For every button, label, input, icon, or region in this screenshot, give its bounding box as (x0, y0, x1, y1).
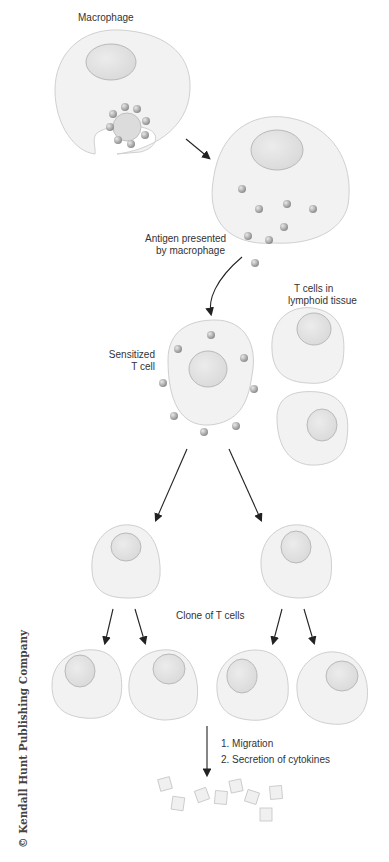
label-sensitized-line2: T cell (100, 361, 155, 373)
arrow-rr (304, 609, 314, 643)
label-antigen-presented: Antigen presented by macrophage (145, 233, 225, 257)
clone-cell-4 (297, 652, 368, 724)
label-clone: Clone of T cells (176, 610, 245, 622)
label-macrophage: Macrophage (78, 12, 134, 24)
cytokines (158, 777, 283, 821)
arrow-ll (105, 609, 113, 643)
label-antigen-line2: by macrophage (145, 245, 225, 257)
arrow-split-left (156, 449, 187, 520)
label-tcells-line1: T cells in (288, 283, 357, 295)
sensitized-t-cell (159, 320, 258, 436)
arrow-antigen-to-tcell (210, 257, 242, 314)
label-sensitized-t-cell: Sensitized T cell (100, 349, 155, 373)
label-antigen-line1: Antigen presented (145, 233, 225, 245)
arrow-lr (135, 609, 145, 643)
label-step-migration: 1. Migration (221, 738, 273, 750)
diagram-canvas (0, 0, 389, 862)
arrow-macrophage-to-digest (186, 139, 209, 158)
clone-cell-left (92, 525, 160, 598)
arrow-split-right (229, 449, 261, 520)
arrow-rl (273, 609, 282, 643)
label-tcells-line2: lymphoid tissue (288, 295, 357, 307)
clone-cell-1 (52, 650, 122, 719)
clone-cell-right (261, 525, 332, 598)
label-step-cytokines: 2. Secretion of cytokines (221, 754, 330, 766)
copyright-notice: © Kendall Hunt Publishing Company (17, 630, 29, 848)
clone-cell-2 (129, 650, 198, 720)
lymphoid-t-cell-2 (277, 392, 348, 465)
lymphoid-t-cell-1 (272, 308, 344, 384)
clone-cell-3 (217, 650, 288, 720)
label-t-cells-lymphoid: T cells in lymphoid tissue (288, 283, 357, 307)
label-sensitized-line1: Sensitized (100, 349, 155, 361)
macrophage-cell (55, 30, 190, 154)
macrophage-digesting-cell (212, 117, 349, 267)
